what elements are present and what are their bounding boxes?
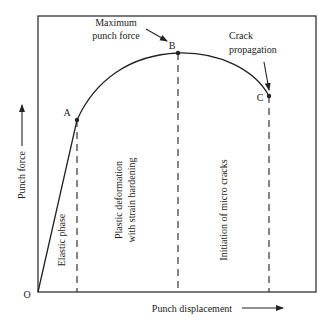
- point-c-marker: [267, 94, 271, 98]
- point-b-label: B: [169, 40, 176, 51]
- point-a-marker: [75, 118, 79, 122]
- x-axis-label: Punch displacement: [152, 303, 232, 314]
- region-plastic-label-line1: Plastic deformation: [113, 161, 124, 239]
- plot-frame: [38, 16, 316, 292]
- y-axis-label: Punch force: [16, 150, 27, 199]
- crack-annotation-line1: Crack: [229, 30, 253, 41]
- point-b-marker: [176, 51, 180, 55]
- region-micro-cracks-label: Initiation of micro cracks: [218, 159, 229, 260]
- point-c-label: C: [257, 92, 264, 103]
- punch-force-diagram: A B C O Maximum punch force Crack propag…: [0, 0, 331, 329]
- max-force-annotation-line1: Maximum: [95, 17, 137, 28]
- region-plastic-label-line2: with strain hardening: [126, 158, 137, 243]
- max-force-annotation-line2: punch force: [92, 30, 140, 41]
- region-elastic-label: Elastic phase: [56, 213, 67, 266]
- max-force-arrow-icon: [146, 29, 167, 41]
- origin-label: O: [23, 289, 30, 300]
- crack-arrow-icon: [264, 62, 269, 90]
- crack-annotation-line2: propagation: [229, 44, 277, 55]
- force-curve: [38, 53, 269, 292]
- point-a-label: A: [63, 107, 71, 118]
